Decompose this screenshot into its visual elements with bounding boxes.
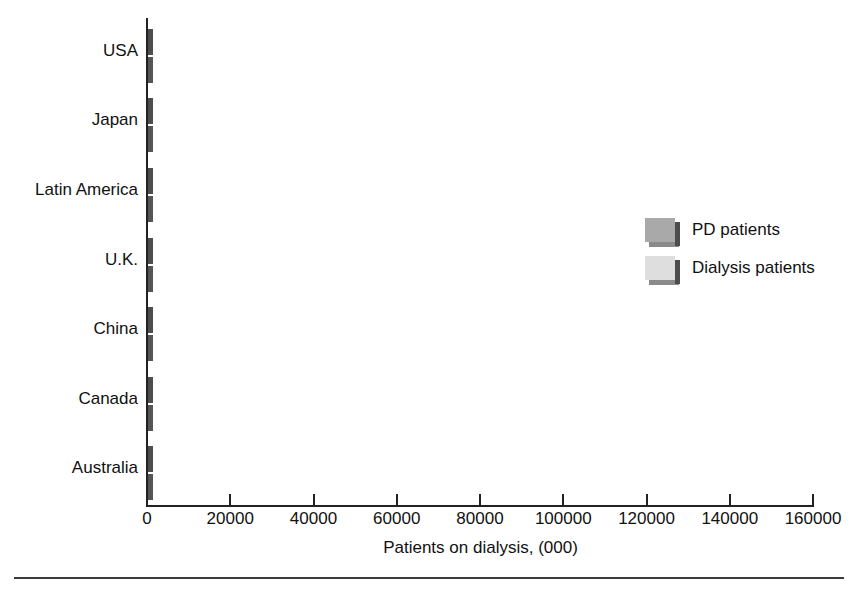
category-label-australia: Australia <box>72 459 138 476</box>
x-tick-label-20000: 20000 <box>207 509 254 529</box>
x-tick-label-100000: 100000 <box>535 509 592 529</box>
category-label-usa: USA <box>103 42 138 59</box>
x-tick-label-120000: 120000 <box>618 509 675 529</box>
legend-item-pd: PD patients <box>645 218 845 246</box>
category-label-latin-america: Latin America <box>35 181 138 198</box>
x-tick-label-160000: 160000 <box>785 509 842 529</box>
x-tick-160000 <box>812 494 814 506</box>
x-tick-120000 <box>646 494 648 506</box>
x-tick-label-60000: 60000 <box>373 509 420 529</box>
category-label-canada: Canada <box>78 390 138 407</box>
chart-figure: USAJapanLatin AmericaU.K.ChinaCanadaAust… <box>0 0 857 595</box>
legend-label-dialysis: Dialysis patients <box>692 258 815 278</box>
category-label-japan: Japan <box>92 111 138 128</box>
x-tick-0 <box>146 494 148 506</box>
legend-label-pd: PD patients <box>692 220 780 240</box>
x-tick-label-40000: 40000 <box>290 509 337 529</box>
x-tick-140000 <box>729 494 731 506</box>
category-label-china: China <box>94 320 138 337</box>
x-tick-60000 <box>396 494 398 506</box>
x-tick-100000 <box>562 494 564 506</box>
x-axis-title: Patients on dialysis, (000) <box>147 538 814 558</box>
x-tick-80000 <box>479 494 481 506</box>
category-axis-labels: USAJapanLatin AmericaU.K.ChinaCanadaAust… <box>0 18 138 505</box>
legend-swatch-pd-icon <box>645 218 675 242</box>
x-tick-40000 <box>313 494 315 506</box>
legend-item-dialysis: Dialysis patients <box>645 256 845 284</box>
x-tick-label-140000: 140000 <box>701 509 758 529</box>
x-tick-label-80000: 80000 <box>456 509 503 529</box>
x-tick-label-0: 0 <box>142 509 151 529</box>
category-label-u-k-: U.K. <box>105 251 138 268</box>
bottom-divider-rule <box>14 577 844 579</box>
y-axis-line <box>146 18 148 507</box>
legend-swatch-dialysis-icon <box>645 256 675 280</box>
x-tick-20000 <box>229 494 231 506</box>
chart-legend: PD patientsDialysis patients <box>645 218 845 294</box>
